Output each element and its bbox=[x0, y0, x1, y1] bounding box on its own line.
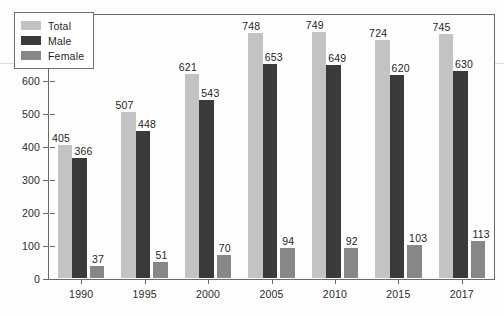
bar-value-label: 366 bbox=[74, 145, 92, 157]
x-axis-tick-label: 2005 bbox=[259, 288, 283, 300]
y-axis-tick-mark-inner bbox=[50, 147, 55, 148]
bar-female-2000 bbox=[217, 255, 232, 278]
legend-swatch-female bbox=[21, 51, 41, 60]
bar-value-label: 620 bbox=[392, 62, 410, 74]
y-axis-tick-label: 0 bbox=[0, 273, 40, 285]
bar-value-label: 51 bbox=[155, 249, 167, 261]
legend-label: Female bbox=[48, 50, 84, 62]
legend-item-male[interactable]: Male bbox=[21, 33, 84, 48]
y-axis-tick-label: 600 bbox=[0, 75, 40, 87]
bar-female-1995 bbox=[153, 262, 168, 279]
x-axis-tick-mark bbox=[398, 279, 399, 284]
legend-label: Total bbox=[48, 20, 71, 32]
x-axis-tick-mark bbox=[208, 279, 209, 284]
x-axis-tick-label: 2017 bbox=[450, 288, 474, 300]
bar-chart: 0100200300400500600700800 19901995200020… bbox=[0, 0, 504, 316]
bar-female-2017 bbox=[471, 241, 486, 278]
bar-value-label: 748 bbox=[242, 20, 260, 32]
bar-value-label: 630 bbox=[455, 58, 473, 70]
legend-swatch-total bbox=[21, 21, 41, 30]
bar-male-2017 bbox=[453, 71, 468, 278]
bar-male-2010 bbox=[326, 65, 341, 278]
bar-value-label: 749 bbox=[306, 19, 324, 31]
x-axis-tick-mark bbox=[145, 279, 146, 284]
bar-value-label: 94 bbox=[282, 235, 294, 247]
y-axis-tick-mark bbox=[43, 114, 48, 115]
x-axis-tick-mark bbox=[335, 279, 336, 284]
y-axis-tick-mark-inner bbox=[50, 279, 55, 280]
bar-male-2015 bbox=[390, 75, 405, 279]
bar-total-2010 bbox=[312, 32, 327, 278]
legend-item-total[interactable]: Total bbox=[21, 18, 84, 33]
x-axis-tick-label: 1995 bbox=[133, 288, 157, 300]
bar-female-2010 bbox=[344, 248, 359, 278]
bar-value-label: 745 bbox=[433, 21, 451, 33]
x-axis-tick-mark bbox=[462, 279, 463, 284]
bar-value-label: 113 bbox=[473, 228, 490, 240]
y-axis-tick-label: 500 bbox=[0, 108, 40, 120]
y-axis-tick-mark-inner bbox=[50, 246, 55, 247]
y-axis-tick-mark bbox=[43, 147, 48, 148]
legend-label: Male bbox=[48, 35, 72, 47]
bar-total-2000 bbox=[185, 74, 200, 278]
bar-value-label: 621 bbox=[179, 61, 197, 73]
bar-value-label: 448 bbox=[138, 118, 156, 130]
bar-total-2017 bbox=[439, 34, 454, 279]
y-axis-tick-label: 400 bbox=[0, 141, 40, 153]
bar-total-1995 bbox=[121, 112, 136, 279]
bar-female-2015 bbox=[407, 245, 422, 279]
bar-male-2000 bbox=[199, 100, 214, 279]
y-axis-tick-mark-inner bbox=[50, 180, 55, 181]
bar-male-1990 bbox=[72, 158, 87, 278]
bar-value-label: 507 bbox=[115, 99, 133, 111]
x-axis-tick-label: 1990 bbox=[69, 288, 93, 300]
x-axis-tick-mark bbox=[81, 279, 82, 284]
bar-total-1990 bbox=[58, 145, 73, 278]
bar-value-label: 70 bbox=[219, 242, 231, 254]
bar-value-label: 543 bbox=[201, 87, 219, 99]
x-axis-tick-label: 2000 bbox=[196, 288, 220, 300]
legend-item-female[interactable]: Female bbox=[21, 48, 84, 63]
y-axis-tick-mark bbox=[43, 279, 48, 280]
bar-male-2005 bbox=[263, 64, 278, 279]
y-axis-tick-label: 200 bbox=[0, 207, 40, 219]
bar-total-2005 bbox=[248, 33, 263, 279]
y-axis-tick-mark bbox=[43, 81, 48, 82]
y-axis-tick-label: 300 bbox=[0, 174, 40, 186]
y-axis-tick-mark-inner bbox=[50, 81, 55, 82]
bar-value-label: 103 bbox=[409, 232, 427, 244]
bar-value-label: 92 bbox=[346, 235, 358, 247]
chart-legend: TotalMaleFemale bbox=[14, 12, 94, 69]
bar-female-2005 bbox=[280, 248, 295, 279]
x-axis-tick-label: 2010 bbox=[323, 288, 347, 300]
legend-swatch-male bbox=[21, 36, 41, 45]
bar-value-label: 649 bbox=[328, 52, 346, 64]
bar-value-label: 653 bbox=[265, 51, 283, 63]
y-axis-tick-mark-inner bbox=[50, 213, 55, 214]
bar-total-2015 bbox=[375, 40, 390, 278]
bar-value-label: 724 bbox=[369, 27, 387, 39]
bar-female-1990 bbox=[90, 266, 105, 278]
bar-male-1995 bbox=[136, 131, 151, 278]
y-axis-tick-mark bbox=[43, 180, 48, 181]
bar-value-label: 37 bbox=[92, 253, 104, 265]
x-axis-tick-label: 2015 bbox=[386, 288, 410, 300]
y-axis-tick-label: 100 bbox=[0, 240, 40, 252]
y-axis-tick-mark bbox=[43, 213, 48, 214]
bar-value-label: 405 bbox=[52, 132, 70, 144]
x-axis-tick-mark bbox=[272, 279, 273, 284]
y-axis-tick-mark-inner bbox=[50, 114, 55, 115]
y-axis-tick-mark bbox=[43, 246, 48, 247]
